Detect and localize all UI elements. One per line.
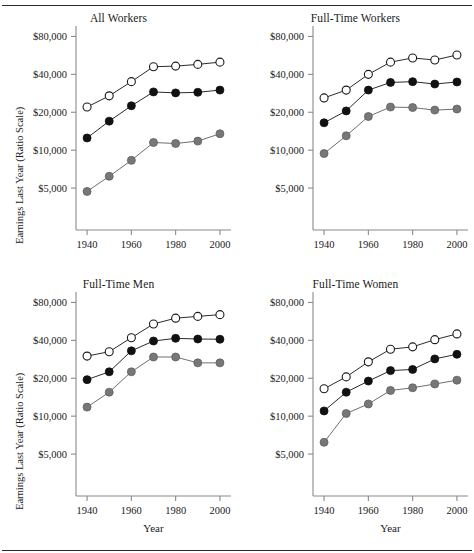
y-tick-label: $5,000 xyxy=(275,183,304,194)
y-tick-label: $80,000 xyxy=(270,31,304,42)
data-point-lower xyxy=(320,438,328,446)
data-point-upper xyxy=(105,348,113,356)
data-point-upper xyxy=(150,320,158,328)
data-point-lower xyxy=(150,139,158,147)
data-point-upper xyxy=(172,314,180,322)
y-tick-label: $5,000 xyxy=(38,183,67,194)
data-point-lower xyxy=(342,132,350,140)
y-tick-label: $5,000 xyxy=(275,449,304,460)
data-point-lower xyxy=(172,139,180,147)
data-point-lower xyxy=(453,105,461,113)
data-point-upper xyxy=(431,56,439,64)
data-point-lower xyxy=(387,103,395,111)
data-point-lower xyxy=(409,384,417,392)
y-tick-label: $5,000 xyxy=(38,449,67,460)
y-tick-label: $10,000 xyxy=(270,411,304,422)
x-axis-label: Year xyxy=(143,522,164,534)
y-tick-label: $40,000 xyxy=(33,335,67,346)
data-point-middle xyxy=(127,102,135,110)
panel-grid: All Workers Earnings Last Year (Ratio Sc… xyxy=(0,8,474,548)
data-point-middle xyxy=(431,355,439,363)
data-point-lower xyxy=(431,380,439,388)
data-point-upper xyxy=(431,336,439,344)
y-tick-label: $20,000 xyxy=(270,373,304,384)
data-point-lower xyxy=(216,359,224,367)
y-tick-label: $40,000 xyxy=(270,335,304,346)
plot-area: $5,000$10,000$20,000$40,000$80,000194019… xyxy=(0,274,237,544)
y-tick-label: $80,000 xyxy=(33,297,67,308)
figure-bottom-rule xyxy=(2,550,472,551)
data-point-upper xyxy=(150,63,158,71)
data-point-lower xyxy=(342,409,350,417)
data-point-middle xyxy=(453,350,461,358)
x-tick-label: 2000 xyxy=(446,505,467,516)
x-tick-label: 1960 xyxy=(121,505,142,516)
y-tick-label: $20,000 xyxy=(33,373,67,384)
data-point-lower xyxy=(127,368,135,376)
data-point-middle xyxy=(431,80,439,88)
x-tick-label: 1960 xyxy=(358,505,379,516)
data-point-upper xyxy=(172,62,180,70)
data-point-lower xyxy=(387,386,395,394)
data-point-lower xyxy=(150,353,158,361)
data-point-middle xyxy=(387,78,395,86)
x-tick-label: 1980 xyxy=(165,505,186,516)
y-tick-label: $20,000 xyxy=(33,107,67,118)
data-point-middle xyxy=(172,334,180,342)
x-tick-label: 1960 xyxy=(121,239,142,250)
data-point-upper xyxy=(105,92,113,100)
data-point-middle xyxy=(150,88,158,96)
data-point-upper xyxy=(194,60,202,68)
data-point-upper xyxy=(83,103,91,111)
data-point-middle xyxy=(83,376,91,384)
x-tick-label: 2000 xyxy=(446,239,467,250)
data-point-lower xyxy=(83,403,91,411)
data-point-middle xyxy=(172,89,180,97)
data-point-middle xyxy=(364,377,372,385)
data-point-lower xyxy=(83,187,91,195)
data-point-lower xyxy=(453,376,461,384)
data-point-middle xyxy=(342,107,350,115)
x-tick-label: 1940 xyxy=(77,505,98,516)
plot-area: $5,000$10,000$20,000$40,000$80,000194019… xyxy=(237,274,474,544)
data-point-middle xyxy=(216,335,224,343)
data-point-lower xyxy=(194,359,202,367)
data-point-middle xyxy=(320,407,328,415)
panel-all-workers: All Workers Earnings Last Year (Ratio Sc… xyxy=(0,8,237,278)
panel-full-time-workers: Full-Time Workers $5,000$10,000$20,000$4… xyxy=(237,8,474,278)
data-point-upper xyxy=(216,58,224,66)
data-point-middle xyxy=(453,78,461,86)
data-point-upper xyxy=(127,78,135,86)
data-point-upper xyxy=(216,311,224,319)
plot-area: $5,000$10,000$20,000$40,000$80,000194019… xyxy=(0,8,237,278)
data-point-lower xyxy=(216,130,224,138)
x-axis-label: Year xyxy=(380,522,401,534)
data-point-lower xyxy=(105,388,113,396)
data-point-lower xyxy=(127,156,135,164)
data-point-upper xyxy=(364,358,372,366)
data-point-lower xyxy=(431,106,439,114)
data-point-middle xyxy=(150,337,158,345)
data-point-upper xyxy=(364,70,372,78)
data-point-middle xyxy=(409,78,417,86)
data-point-upper xyxy=(127,334,135,342)
data-point-upper xyxy=(342,373,350,381)
y-tick-label: $80,000 xyxy=(33,31,67,42)
data-point-upper xyxy=(453,51,461,59)
data-point-lower xyxy=(194,137,202,145)
panel-full-time-women: Full-Time Women $5,000$10,000$20,000$40,… xyxy=(237,274,474,544)
figure-top-rule xyxy=(2,5,472,6)
data-point-middle xyxy=(342,388,350,396)
panel-full-time-men: Full-Time Men Earnings Last Year (Ratio … xyxy=(0,274,237,544)
data-point-middle xyxy=(387,367,395,375)
x-tick-label: 1980 xyxy=(402,505,423,516)
y-tick-label: $20,000 xyxy=(270,107,304,118)
data-point-upper xyxy=(409,54,417,62)
y-tick-label: $10,000 xyxy=(270,145,304,156)
data-point-upper xyxy=(409,343,417,351)
y-tick-label: $40,000 xyxy=(270,69,304,80)
data-point-upper xyxy=(387,345,395,353)
data-point-upper xyxy=(83,352,91,360)
data-point-upper xyxy=(342,86,350,94)
data-point-lower xyxy=(409,104,417,112)
